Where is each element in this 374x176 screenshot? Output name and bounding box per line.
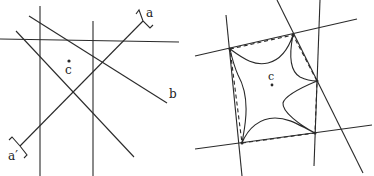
star-shaped-curve (230, 35, 317, 143)
vertex-p3 (316, 80, 319, 83)
left-diagram: abca′ (0, 6, 179, 176)
label-b: b (169, 87, 177, 101)
vertex-p2 (292, 34, 295, 37)
right-diagram: c (195, 0, 372, 176)
left-line (226, 15, 242, 176)
label-a-prime: a′ (8, 149, 18, 163)
label-a: a (146, 6, 153, 20)
top-line (195, 19, 357, 56)
diagonal-line (16, 31, 134, 157)
vertex-p1 (229, 48, 232, 51)
vertex-p5 (241, 142, 244, 145)
vertex-p4 (314, 132, 317, 135)
two-panel-line-diagram: abca′ c (0, 0, 374, 176)
right-vertical-line (314, 0, 320, 166)
label-c: c (268, 70, 274, 83)
horizontal-line (0, 39, 179, 42)
point-c (271, 84, 274, 87)
slanted-right-line (277, 0, 363, 173)
line-b (29, 16, 167, 103)
label-c: c (65, 63, 72, 77)
